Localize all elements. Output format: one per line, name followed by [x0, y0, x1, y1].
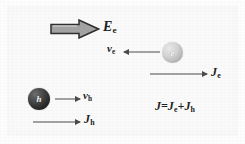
electron-particle-label: e	[171, 48, 175, 58]
arrow-head	[123, 49, 129, 55]
equation-equals: =	[161, 99, 168, 113]
hole-particle: h	[28, 88, 50, 110]
field-label-Ee: Ee	[103, 20, 117, 35]
electron-particle: e	[162, 42, 183, 63]
electron-velocity-label: ve	[107, 43, 115, 56]
hole-current-label-sub: h	[90, 118, 94, 127]
hole-current-label: Jh	[84, 113, 95, 127]
arrow-head	[202, 71, 208, 77]
equation-term2-base: J	[184, 99, 190, 113]
electron-current-label-sub: e	[217, 71, 221, 80]
arrow-right-icon-hole-velocity	[55, 95, 80, 102]
arrow-head	[75, 96, 81, 102]
electron-current-label: Je	[211, 66, 221, 80]
field-label-base: E	[103, 19, 112, 34]
arrow-head	[75, 119, 81, 125]
block-arrow-right-icon	[50, 19, 100, 39]
hole-velocity-label-sub: h	[88, 95, 92, 103]
hole-particle-label: h	[36, 94, 41, 104]
field-label-sub: e	[113, 25, 117, 35]
arrow-left-icon-electron-velocity	[124, 48, 160, 55]
arrow-right-icon-electron-current	[150, 70, 207, 77]
equation-term2-sub: h	[191, 105, 195, 114]
arrow-right-icon-hole-current	[33, 118, 80, 125]
physics-diagram-figure: Ee e ve Je h vh Jh J=Je+Jh	[0, 0, 245, 144]
hole-velocity-label: vh	[83, 90, 92, 103]
electron-velocity-label-sub: e	[112, 48, 115, 56]
equation-term1-base: J	[168, 99, 174, 113]
arrow-shaft	[150, 73, 207, 74]
arrow-shaft	[33, 121, 80, 122]
arrow-shaft	[124, 51, 160, 52]
total-current-equation: J=Je+Jh	[155, 100, 195, 114]
